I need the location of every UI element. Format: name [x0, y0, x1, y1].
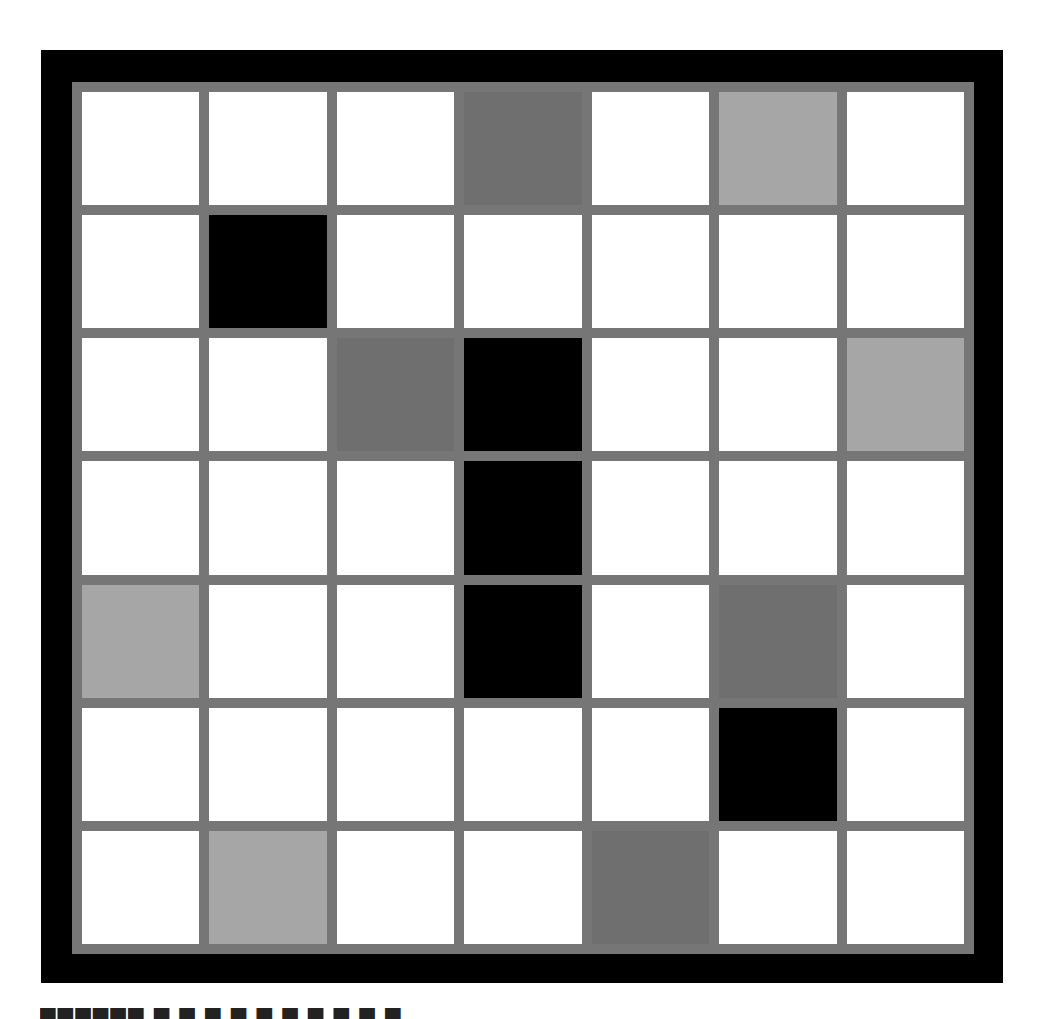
grid-cell-r4-c1[interactable]: [209, 585, 326, 698]
grid-cell-r2-c3[interactable]: [464, 338, 581, 451]
grid-cell-r3-c1[interactable]: [209, 461, 326, 574]
grid-cell-r3-c0[interactable]: [82, 461, 199, 574]
grid-cell-r0-c0[interactable]: [82, 92, 199, 205]
grid-cell-r2-c4[interactable]: [592, 338, 709, 451]
grid-cell-r1-c3[interactable]: [464, 215, 581, 328]
grid-cell-r5-c5[interactable]: [719, 708, 836, 821]
clipped-caption-text: ▀▀▀▀▀▀ ▀ ▀ ▀ ▀ ▀ ▀ ▀ ▀ ▀ ▀: [40, 1008, 1010, 1019]
grid-cell-r5-c0[interactable]: [82, 708, 199, 821]
grid-cell-r4-c3[interactable]: [464, 585, 581, 698]
grid-cell-r5-c2[interactable]: [337, 708, 454, 821]
grid-cell-r6-c5[interactable]: [719, 831, 836, 944]
grid-cell-r6-c1[interactable]: [209, 831, 326, 944]
grid-cell-r4-c4[interactable]: [592, 585, 709, 698]
grid-cell-r6-c4[interactable]: [592, 831, 709, 944]
grid-cell-r1-c5[interactable]: [719, 215, 836, 328]
grid-cell-r3-c2[interactable]: [337, 461, 454, 574]
grid-cell-r2-c6[interactable]: [847, 338, 964, 451]
grid-cell-r3-c3[interactable]: [464, 461, 581, 574]
grid-cell-r2-c1[interactable]: [209, 338, 326, 451]
grid-cell-r3-c5[interactable]: [719, 461, 836, 574]
grid-cell-r5-c3[interactable]: [464, 708, 581, 821]
grid-cell-r0-c2[interactable]: [337, 92, 454, 205]
grid-cell-r3-c6[interactable]: [847, 461, 964, 574]
grid-cell-r3-c4[interactable]: [592, 461, 709, 574]
grid-cell-r0-c3[interactable]: [464, 92, 581, 205]
grid-cell-r1-c0[interactable]: [82, 215, 199, 328]
grid-cell-r6-c2[interactable]: [337, 831, 454, 944]
grid-cell-r2-c0[interactable]: [82, 338, 199, 451]
grid-cell-r6-c6[interactable]: [847, 831, 964, 944]
board-frame: [41, 50, 1003, 983]
grid-cell-r1-c6[interactable]: [847, 215, 964, 328]
grid-cell-r4-c6[interactable]: [847, 585, 964, 698]
grid-cell-r4-c0[interactable]: [82, 585, 199, 698]
grid-cell-r2-c2[interactable]: [337, 338, 454, 451]
grid-cell-r0-c1[interactable]: [209, 92, 326, 205]
grid-cell-r1-c2[interactable]: [337, 215, 454, 328]
grid-cell-r1-c1[interactable]: [209, 215, 326, 328]
grid-cell-r5-c1[interactable]: [209, 708, 326, 821]
grid-cell-r0-c5[interactable]: [719, 92, 836, 205]
grid-cell-r5-c6[interactable]: [847, 708, 964, 821]
puzzle-grid: [72, 82, 974, 954]
grid-cell-r6-c0[interactable]: [82, 831, 199, 944]
grid-cell-r5-c4[interactable]: [592, 708, 709, 821]
grid-cell-r0-c6[interactable]: [847, 92, 964, 205]
grid-cell-r4-c2[interactable]: [337, 585, 454, 698]
grid-cell-r6-c3[interactable]: [464, 831, 581, 944]
grid-cell-r1-c4[interactable]: [592, 215, 709, 328]
grid-cell-r0-c4[interactable]: [592, 92, 709, 205]
grid-cell-r2-c5[interactable]: [719, 338, 836, 451]
grid-cell-r4-c5[interactable]: [719, 585, 836, 698]
